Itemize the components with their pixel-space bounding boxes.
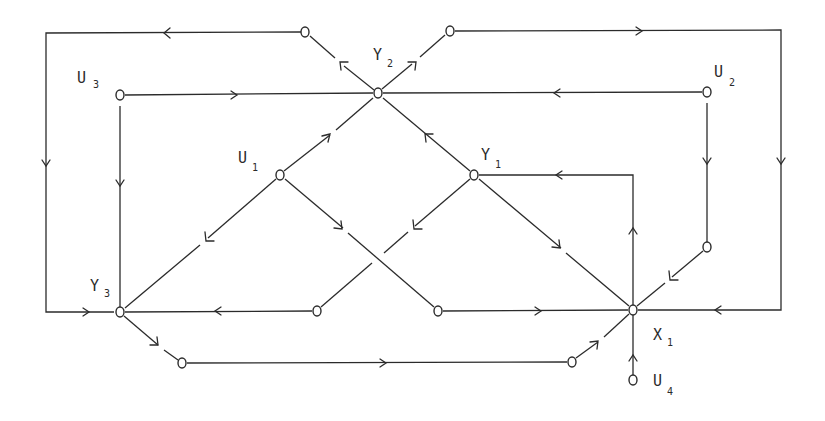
labels: U 3 Y 2 U 2 U 1 Y 1 Y 3 X 1 U 4 <box>77 46 735 397</box>
edge-u4-to-x1 <box>629 315 637 375</box>
label-y2: Y 2 <box>373 46 393 69</box>
edge-u1-to-y3 <box>125 179 276 308</box>
edge-midright-to-x1 <box>443 307 628 315</box>
node-bot-right <box>568 357 576 367</box>
edge-y1-to-midleft <box>321 179 470 307</box>
svg-text:X: X <box>653 326 662 344</box>
label-u4: U 4 <box>653 372 673 397</box>
svg-text:1: 1 <box>252 162 258 173</box>
edge-midleft-to-y3 <box>125 307 312 315</box>
edge-u1-to-midright <box>285 179 434 307</box>
svg-text:Y: Y <box>373 46 382 64</box>
node-u2 <box>703 87 711 97</box>
svg-text:U: U <box>653 372 662 390</box>
svg-text:Y: Y <box>481 146 490 164</box>
edge-y1-to-x1 <box>479 179 629 306</box>
svg-text:2: 2 <box>729 77 735 88</box>
node-u3 <box>116 90 124 100</box>
edge-u3-to-y2 <box>125 91 373 99</box>
node-y3 <box>116 307 124 317</box>
svg-text:1: 1 <box>495 159 501 170</box>
edge-rightmid-to-x1 <box>637 251 703 306</box>
edge-y2-to-topleft <box>310 36 374 90</box>
svg-text:U: U <box>714 63 723 81</box>
edge-u2-to-y2 <box>383 89 702 97</box>
node-y2 <box>374 88 382 98</box>
svg-text:2: 2 <box>387 58 393 69</box>
label-u3: U 3 <box>77 69 99 90</box>
svg-text:3: 3 <box>93 79 99 90</box>
signal-flow-graph: U 3 Y 2 U 2 U 1 Y 1 Y 3 X 1 U 4 <box>0 0 825 421</box>
edge-topright-to-x1 <box>455 27 785 314</box>
label-x1: X 1 <box>653 326 673 348</box>
arrow-upleft-icon <box>425 134 433 142</box>
node-right-mid <box>703 242 711 252</box>
edge-u3-to-y3 <box>116 106 124 307</box>
edge-botleft-to-botright <box>187 359 567 367</box>
node-mid-left <box>313 306 321 316</box>
label-y1: Y 1 <box>481 146 501 170</box>
node-y1 <box>470 170 478 180</box>
edge-x1-to-y1 <box>479 171 637 305</box>
label-u2: U 2 <box>714 63 735 88</box>
svg-text:3: 3 <box>104 288 110 299</box>
svg-text:Y: Y <box>90 277 99 295</box>
node-top-right <box>446 26 454 36</box>
edges <box>42 27 785 375</box>
node-top-left <box>301 27 309 37</box>
nodes <box>116 26 711 385</box>
node-mid-right <box>434 306 442 316</box>
edge-botright-to-x1 <box>576 314 629 358</box>
svg-text:4: 4 <box>667 386 673 397</box>
edge-y3-to-botleft <box>124 316 178 360</box>
node-u4 <box>629 375 637 385</box>
node-x1 <box>629 305 637 315</box>
edge-y1-to-y2 <box>383 98 470 171</box>
label-y3: Y 3 <box>90 277 110 299</box>
edge-u1-to-y2 <box>284 98 373 171</box>
node-bot-left <box>178 358 186 368</box>
svg-text:1: 1 <box>667 337 673 348</box>
label-u1: U 1 <box>238 149 258 173</box>
edge-u2-to-rightmid <box>703 103 711 242</box>
arrow-right-icon <box>231 91 237 99</box>
node-u1 <box>276 170 284 180</box>
svg-text:U: U <box>238 149 247 167</box>
svg-text:U: U <box>77 69 86 87</box>
